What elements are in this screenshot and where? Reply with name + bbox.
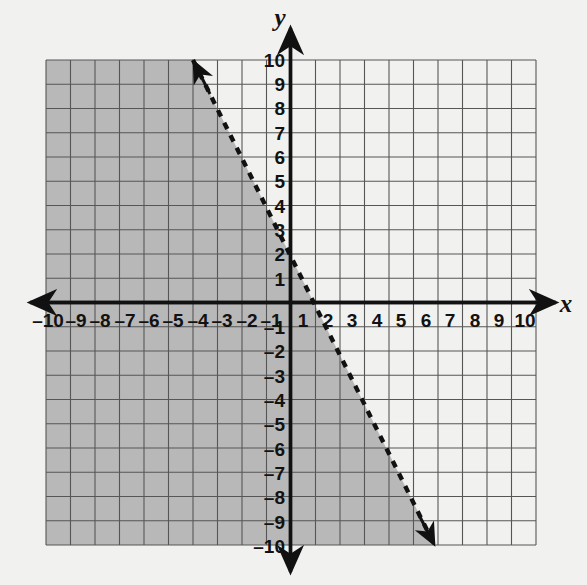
y-tick-label: 1	[274, 269, 285, 290]
x-tick-label: 6	[421, 310, 432, 331]
x-tick-label: 1	[298, 310, 309, 331]
y-tick-label: –8	[264, 487, 285, 508]
y-tick-label: –3	[264, 366, 285, 387]
y-tick-label: 2	[274, 244, 285, 265]
x-tick-label: 9	[494, 310, 505, 331]
x-tick-label: 4	[372, 310, 383, 331]
y-tick-label: 10	[264, 50, 285, 71]
x-axis-label: x	[559, 290, 573, 317]
x-tick-label: –2	[236, 310, 257, 331]
y-tick-label: –6	[264, 439, 285, 460]
x-tick-label: –10	[32, 310, 64, 331]
y-tick-label: 6	[274, 147, 285, 168]
y-tick-label: –10	[253, 536, 285, 557]
coordinate-plane: –10 –9 –8 –7 –6 –5 –4 –3 –2 –1 1 2 3 4 5…	[0, 0, 587, 585]
x-tick-label: –3	[211, 310, 232, 331]
graph-figure: –10 –9 –8 –7 –6 –5 –4 –3 –2 –1 1 2 3 4 5…	[0, 0, 587, 585]
y-tick-label: –2	[264, 341, 285, 362]
x-tick-label: –5	[162, 310, 184, 331]
x-tick-label: –4	[187, 310, 209, 331]
x-tick-label: 8	[470, 310, 481, 331]
x-tick-label: 7	[445, 310, 456, 331]
y-tick-label: –7	[264, 463, 285, 484]
x-tick-label: 10	[514, 310, 535, 331]
y-tick-label: –9	[264, 512, 285, 533]
y-tick-label: 5	[274, 171, 285, 192]
y-tick-label: 7	[274, 123, 285, 144]
x-tick-label: 2	[323, 310, 334, 331]
y-tick-label: 9	[274, 74, 285, 95]
x-tick-label: 5	[396, 310, 407, 331]
y-tick-label: –5	[264, 414, 286, 435]
x-tick-label: –7	[114, 310, 135, 331]
y-tick-label: –4	[264, 390, 286, 411]
x-tick-label: –6	[138, 310, 159, 331]
y-axis-label: y	[271, 4, 286, 31]
x-tick-label: –8	[89, 310, 110, 331]
y-tick-label: 4	[274, 196, 285, 217]
y-tick-label: 3	[274, 220, 285, 241]
x-tick-label: –9	[65, 310, 86, 331]
y-tick-label: 8	[274, 98, 285, 119]
x-tick-label: 3	[347, 310, 358, 331]
y-tick-label: –1	[264, 317, 286, 338]
